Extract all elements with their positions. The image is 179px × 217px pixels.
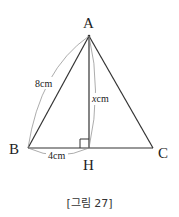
vertex-a-label: A xyxy=(83,15,94,31)
triangle-diagram: A B C H 8cm xcm 4cm xyxy=(0,0,179,217)
vertex-h-label: H xyxy=(83,157,94,173)
label-ah-length: xcm xyxy=(91,93,109,104)
vertex-b-label: B xyxy=(9,141,19,157)
label-ab-length: 8cm xyxy=(35,78,52,89)
arc-ah xyxy=(89,36,96,148)
vertex-c-label: C xyxy=(158,145,168,161)
label-bh-length: 4cm xyxy=(48,150,65,161)
side-ac xyxy=(89,36,153,148)
figure-caption: [그림 27] xyxy=(0,194,179,210)
side-ab xyxy=(28,36,89,148)
right-angle-mark xyxy=(80,139,89,148)
